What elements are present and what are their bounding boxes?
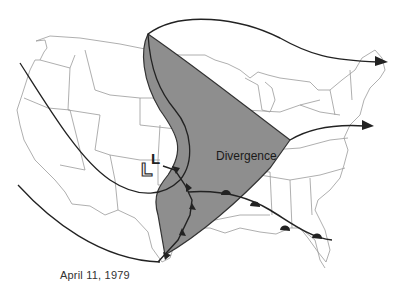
jet-stream-north bbox=[148, 19, 378, 62]
arrow-head-east-icon bbox=[362, 120, 374, 130]
weather-map bbox=[0, 0, 406, 294]
map-date-caption: April 11, 1979 bbox=[60, 269, 130, 281]
divergence-label: Divergence bbox=[216, 149, 277, 163]
divergence-region bbox=[144, 34, 290, 255]
jet-stream-east bbox=[290, 126, 365, 140]
previous-low-pressure-symbol: L bbox=[141, 159, 153, 181]
southern-curve bbox=[18, 185, 160, 262]
